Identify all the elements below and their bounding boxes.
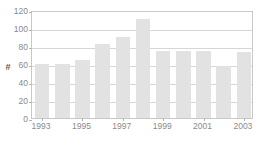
bar (95, 44, 110, 118)
bar (35, 64, 50, 118)
y-axis-tick-mark (29, 84, 32, 85)
x-axis-tick-label: 1999 (142, 121, 182, 131)
y-axis-tick-label: 40 (6, 79, 28, 87)
bars-group (32, 12, 252, 118)
y-axis-tick-mark (29, 12, 32, 13)
bar (116, 37, 131, 118)
bar (196, 51, 211, 118)
y-axis-tick-mark (29, 102, 32, 103)
bar-chart: # 020406080100120 1993199519971999200120… (0, 0, 258, 145)
y-axis-tick-label: 60 (6, 61, 28, 69)
bar (75, 60, 90, 118)
y-axis-tick-mark (29, 30, 32, 31)
y-axis-tick-label: 20 (6, 97, 28, 105)
x-axis-tick-label: 2003 (223, 121, 258, 131)
bar (136, 19, 151, 118)
y-axis-tick-label: 100 (6, 25, 28, 33)
bar (156, 51, 171, 119)
x-axis-tick-labels: 199319951997199920012003 (31, 121, 253, 135)
bar (176, 51, 191, 119)
bar (55, 64, 70, 118)
bar (216, 66, 231, 118)
x-axis-tick-label: 1997 (102, 121, 142, 131)
y-axis-tick-label: 120 (6, 7, 28, 15)
y-axis-tick-mark (29, 48, 32, 49)
x-axis-tick-label: 1995 (61, 121, 101, 131)
x-axis-tick-label: 1993 (21, 121, 61, 131)
bar (237, 52, 252, 118)
y-axis-tick-label: 80 (6, 43, 28, 51)
plot-area (31, 11, 253, 119)
x-axis-tick-label: 2001 (183, 121, 223, 131)
y-axis-tick-mark (29, 66, 32, 67)
